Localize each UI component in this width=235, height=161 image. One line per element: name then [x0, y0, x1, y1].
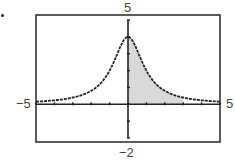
- y-min-label: −2: [119, 146, 134, 159]
- x-min-label: −5: [16, 97, 31, 110]
- y-max-label: 5: [124, 1, 131, 14]
- plot-area: [0, 0, 235, 161]
- x-max-label: 5: [226, 97, 233, 110]
